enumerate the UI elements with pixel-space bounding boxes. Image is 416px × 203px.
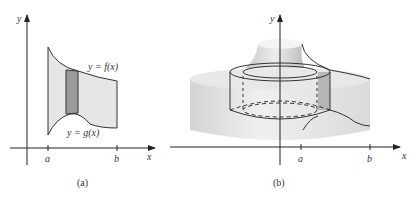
x-axis-label: x — [401, 150, 407, 161]
tick-a-label: a — [45, 153, 50, 164]
tick-b-label: b — [367, 153, 372, 164]
caption-a: (a) — [77, 177, 88, 189]
panel-b: y x a b (b) — [170, 13, 407, 189]
caption-b: (b) — [273, 177, 285, 189]
tick-a-label: a — [298, 153, 303, 164]
y-axis-label: y — [269, 13, 275, 24]
figure: y x a b y = f(x) y = g(x) (a) — [0, 0, 416, 203]
lower-curve-label: y = g(x) — [66, 127, 100, 139]
x-axis-label: x — [146, 151, 152, 162]
y-axis-label: y — [16, 13, 22, 24]
upper-curve-label: y = f(x) — [87, 61, 119, 73]
panel-a: y x a b y = f(x) y = g(x) (a) — [10, 13, 155, 189]
vertical-strip — [66, 70, 78, 114]
tick-b-label: b — [114, 153, 119, 164]
